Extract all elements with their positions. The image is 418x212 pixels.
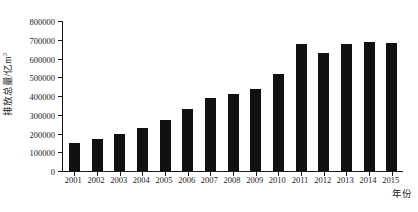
x-axis-tick-label: 2013 xyxy=(337,176,354,185)
bar xyxy=(250,89,261,172)
x-axis-tick-label: 2012 xyxy=(314,176,331,185)
bar xyxy=(92,139,103,171)
bar xyxy=(364,42,375,171)
bar xyxy=(228,94,239,171)
y-axis-tick-label: 100000 xyxy=(30,149,56,158)
x-axis-tick-label: 2011 xyxy=(292,176,309,185)
x-axis-tick-label: 2014 xyxy=(360,176,377,185)
y-axis-tick: 0 xyxy=(58,171,63,172)
y-axis-tick-label: 500000 xyxy=(30,74,56,83)
bar xyxy=(69,143,80,171)
x-axis-tick-label: 2003 xyxy=(110,176,127,185)
bar xyxy=(137,128,148,171)
y-axis-tick: 500000 xyxy=(58,77,63,78)
x-axis-tick-label: 2001 xyxy=(65,176,82,185)
bar-chart: 排放总量/亿m3 0100000200000300000400000500000… xyxy=(0,0,418,212)
y-axis-title-superscript: 3 xyxy=(1,53,8,56)
y-axis-tick: 200000 xyxy=(58,134,63,135)
y-axis-tick-label: 400000 xyxy=(30,93,56,102)
y-axis-tick: 400000 xyxy=(58,96,63,97)
y-axis-tick-label: 700000 xyxy=(30,37,56,46)
y-axis-tick-label: 0 xyxy=(51,168,55,177)
y-axis-tick: 800000 xyxy=(58,21,63,22)
y-axis-title-text: 排放总量/亿m xyxy=(3,57,13,117)
x-axis-tick-label: 2006 xyxy=(178,176,195,185)
bar xyxy=(296,44,307,172)
x-axis-title: 年份 xyxy=(392,190,412,200)
x-axis-tick-label: 2004 xyxy=(133,176,150,185)
y-axis-tick: 700000 xyxy=(58,40,63,41)
x-axis-tick-label: 2005 xyxy=(156,176,173,185)
bar xyxy=(386,43,397,171)
y-axis-tick-label: 200000 xyxy=(30,130,56,139)
y-axis-tick-label: 300000 xyxy=(30,112,56,121)
x-axis-tick-label: 2002 xyxy=(88,176,105,185)
x-axis-tick-label: 2009 xyxy=(246,176,263,185)
bar xyxy=(205,98,216,171)
bar xyxy=(341,44,352,172)
bar xyxy=(318,53,329,171)
x-axis-labels: 2001200220032004200520062007200820092010… xyxy=(62,176,402,190)
y-axis-tick: 100000 xyxy=(58,152,63,153)
y-axis-tick: 600000 xyxy=(58,59,63,60)
y-axis-title: 排放总量/亿m3 xyxy=(0,0,18,170)
x-axis-tick-label: 2010 xyxy=(269,176,286,185)
bar xyxy=(114,134,125,172)
x-axis-tick-label: 2015 xyxy=(382,176,399,185)
y-axis-tick-label: 600000 xyxy=(30,55,56,64)
y-axis-tick-label: 800000 xyxy=(30,18,56,27)
bar xyxy=(182,109,193,171)
x-axis-tick-label: 2007 xyxy=(201,176,218,185)
plot-area: 0100000200000300000400000500000600000700… xyxy=(62,21,403,172)
bar xyxy=(160,120,171,171)
y-axis-tick: 300000 xyxy=(58,115,63,116)
bar xyxy=(273,74,284,172)
x-axis-tick-label: 2008 xyxy=(224,176,241,185)
